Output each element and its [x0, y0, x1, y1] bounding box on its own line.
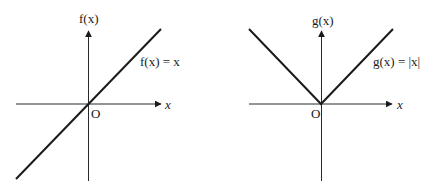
right-function-label: g(x) = |x|: [373, 55, 420, 68]
left-origin-label: O: [91, 107, 100, 120]
graphs-svg: [0, 0, 439, 195]
right-y-axis-label: g(x): [312, 14, 334, 27]
function-graphs-figure: f(x) x O f(x) = x g(x) x O g(x) = |x|: [0, 0, 439, 195]
right-origin-label: O: [311, 107, 320, 120]
right-x-axis-label: x: [397, 98, 403, 111]
graph-f-identity: [16, 29, 161, 181]
left-function-label: f(x) = x: [140, 55, 180, 68]
graph-g-absolute: [249, 29, 393, 181]
left-y-axis-label: f(x): [79, 12, 99, 25]
left-x-axis-label: x: [165, 98, 171, 111]
